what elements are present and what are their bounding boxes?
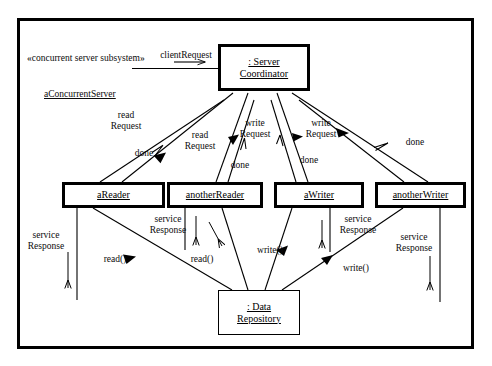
- object-areader-label: aReader: [97, 189, 130, 201]
- object-anotherwriter-label: anotherWriter: [393, 189, 449, 201]
- message-write-call-1: write(): [248, 245, 292, 256]
- object-awriter[interactable]: aWriter: [274, 182, 364, 208]
- message-read-call-2: read(): [182, 254, 222, 265]
- message-done-mid: done: [222, 160, 258, 171]
- message-read-call-1: read(): [95, 254, 135, 265]
- object-data-repository-line1: : Data: [247, 301, 271, 312]
- uml-diagram-canvas: «concurrent server subsystem» aConcurren…: [0, 0, 492, 366]
- object-anotherreader[interactable]: anotherReader: [167, 182, 263, 208]
- subsystem-stereotype: «concurrent server subsystem»: [27, 52, 145, 64]
- read-call-2-arrow: [209, 222, 222, 246]
- message-done-write-mid: done: [290, 155, 328, 166]
- message-service-response-4: serviceResponse: [386, 232, 442, 254]
- done-right-head: [374, 143, 388, 151]
- done-right-line: [299, 100, 404, 182]
- object-server-coordinator-label: : ServerCoordinator: [240, 56, 288, 79]
- message-service-response-2: serviceResponse: [140, 214, 196, 236]
- message-done-right: done: [396, 137, 434, 148]
- object-anotherwriter[interactable]: anotherWriter: [375, 182, 466, 208]
- message-service-response-1: serviceResponse: [18, 230, 74, 252]
- message-write-request-mid: writeRequest: [228, 118, 282, 140]
- read-call-2-line: [222, 208, 248, 290]
- subsystem-instance-name: aConcurrentServer: [27, 88, 145, 100]
- object-data-repository-label: : DataRepository: [237, 301, 281, 324]
- object-anotherreader-label: anotherReader: [186, 189, 244, 201]
- message-write-call-2: write(): [334, 263, 378, 274]
- object-server-coordinator[interactable]: : ServerCoordinator: [218, 44, 310, 91]
- object-data-repository-line2: Repository: [237, 313, 281, 324]
- message-client-request: clientRequest: [146, 50, 226, 61]
- message-service-response-3: serviceResponse: [330, 214, 386, 236]
- message-done-left: done: [124, 148, 164, 159]
- object-server-coordinator-line2: Coordinator: [240, 68, 288, 79]
- object-areader[interactable]: aReader: [62, 182, 165, 208]
- object-awriter-label: aWriter: [304, 189, 334, 201]
- message-read-request-left: readRequest: [98, 110, 154, 132]
- write-call-2-head: [321, 255, 333, 265]
- object-data-repository[interactable]: : DataRepository: [218, 290, 300, 335]
- object-server-coordinator-line1: : Server: [248, 56, 279, 67]
- message-write-request-right: writeRequest: [294, 118, 348, 140]
- message-read-request-mid: readRequest: [174, 130, 226, 152]
